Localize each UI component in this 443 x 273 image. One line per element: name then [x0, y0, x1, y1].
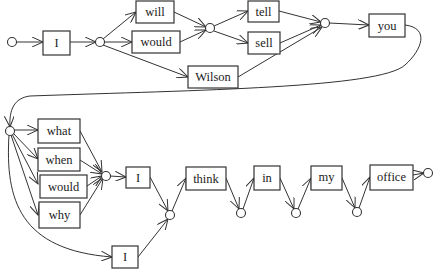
word-box-I-lower: I — [112, 246, 138, 268]
state-node — [166, 211, 175, 220]
word-label: tell — [256, 5, 272, 19]
word-label: think — [193, 172, 219, 186]
word-box-what: what — [38, 119, 80, 143]
word-label: when — [45, 153, 73, 167]
state-node — [96, 38, 105, 47]
word-label: would — [48, 180, 80, 194]
word-box-would-lower: would — [40, 175, 87, 198]
word-box-when: when — [38, 148, 80, 171]
word-label: I — [123, 250, 127, 264]
start-node — [8, 38, 17, 47]
state-node — [206, 24, 215, 33]
state-node — [321, 19, 330, 28]
word-box-tell: tell — [248, 1, 279, 22]
word-label: office — [377, 170, 406, 184]
state-node — [6, 127, 15, 136]
word-label: sell — [255, 36, 273, 50]
word-box-would-top: would — [132, 31, 180, 53]
word-label: why — [49, 208, 71, 222]
word-label: I — [136, 171, 140, 185]
word-label: I — [54, 36, 58, 50]
state-node — [102, 172, 111, 181]
state-node — [353, 208, 362, 217]
state-node — [292, 209, 301, 218]
word-box-will: will — [136, 1, 174, 23]
word-box-why: why — [39, 202, 80, 228]
word-box-office: office — [370, 165, 413, 190]
word-label: Wilson — [195, 70, 231, 84]
end-node — [424, 169, 433, 178]
word-lattice-diagram: I will would Wilson tell sell you what w… — [0, 0, 443, 273]
word-label: you — [378, 19, 398, 33]
word-box-you: you — [369, 14, 405, 37]
word-box-in: in — [254, 166, 280, 190]
state-node — [237, 209, 246, 218]
word-box-think: think — [186, 167, 226, 190]
word-label: in — [262, 171, 272, 185]
word-label: would — [140, 35, 172, 49]
word-box-I-start: I — [43, 31, 70, 55]
word-box-my: my — [311, 166, 342, 190]
word-label: what — [47, 124, 72, 138]
word-box-sell: sell — [248, 32, 280, 54]
word-box-wilson: Wilson — [188, 66, 238, 88]
word-label: will — [145, 5, 165, 19]
word-label: my — [319, 170, 336, 184]
word-box-I-middle: I — [126, 167, 150, 188]
